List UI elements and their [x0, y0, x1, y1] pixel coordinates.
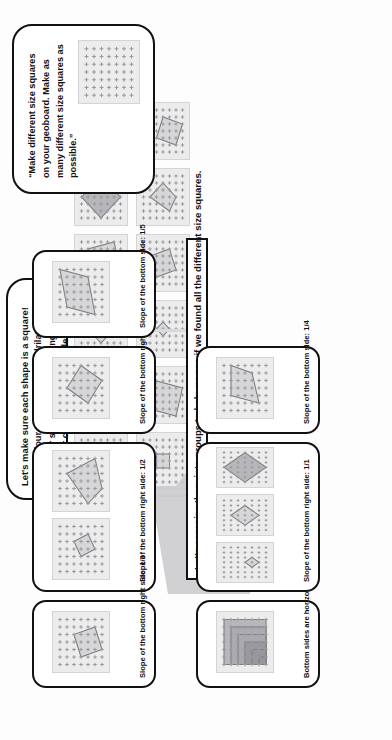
task-prompt-text: “Make different size squares on your geo… [26, 40, 81, 178]
geoboard-grid [217, 448, 273, 487]
group-horizontal: Bottom sides are horizontal [196, 600, 320, 688]
group-slope-1-1: Slope of the bottom right side: 1/1 [196, 442, 320, 592]
geoboard-group-item [52, 518, 110, 580]
group-slope-1-3: Slope of the bottom right side: 1/3 [32, 600, 156, 688]
geoboard-grid [53, 451, 109, 511]
group-label: Slope of the bottom side: 1/5 [138, 224, 147, 328]
geoboard-grid [53, 612, 109, 672]
group-label: Slope of the bottom side: 1/4 [302, 320, 311, 424]
group-label: Slope of the bottom right side: 1/1 [302, 459, 311, 582]
geoboard-group-item [216, 447, 274, 488]
geoboard-group-item [52, 357, 110, 419]
geoboard-shape [67, 366, 102, 404]
geoboard-group-item [216, 494, 274, 535]
task-prompt-geoboard [78, 40, 140, 104]
group-slope-1-4: Slope of the bottom side: 1/4 [196, 346, 320, 434]
slide-rotator: Let's make sure each shape is a square! … [0, 0, 392, 740]
geoboard-group-item [52, 450, 110, 512]
geoboard-group-item [216, 357, 274, 419]
task-prompt-callout: “Make different size squares on your geo… [12, 24, 155, 194]
geoboard-grid [217, 612, 273, 672]
geoboard-pegs [85, 47, 134, 97]
geoboard-shape [231, 366, 259, 404]
geoboard-group-item [216, 611, 274, 673]
geoboard-grid [79, 41, 139, 103]
geoboard-group-item [52, 611, 110, 673]
slide-canvas: Let's make sure each shape is a square! … [0, 0, 392, 740]
group-label: Bottom sides are horizontal [302, 578, 311, 678]
geoboard-pegs [58, 525, 104, 574]
geoboard-shape [74, 534, 95, 557]
geoboard-grid [217, 543, 273, 582]
group-label: Slope of the bottom right side: 1/3 [138, 555, 147, 678]
geoboard-pegs [223, 546, 268, 578]
group-slope-1-5: Slope of the bottom side: 1/5 [32, 250, 156, 338]
geoboard-group-item [216, 542, 274, 583]
group-slope-2-3: Slope of the bottom right side: 2/3 [32, 346, 156, 434]
geoboard-grid [53, 519, 109, 579]
geoboard-pegs [223, 499, 268, 531]
geoboard-grid [53, 358, 109, 418]
callout-heading: Let's make sure each shape is a square! [18, 292, 31, 486]
geoboard-grid [217, 495, 273, 534]
geoboard-grid [53, 262, 109, 322]
geoboard-group-item [52, 261, 110, 323]
geoboard-grid [217, 358, 273, 418]
